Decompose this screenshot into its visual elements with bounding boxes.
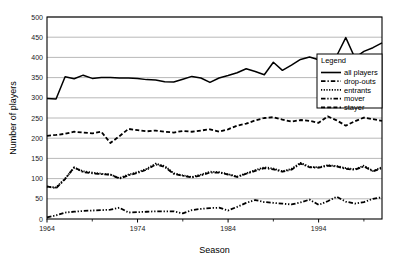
- y-tick-label-50: 50: [35, 195, 43, 202]
- x-tick-label-1964: 1964: [39, 225, 55, 232]
- legend-label-all-players: all players: [344, 68, 378, 77]
- y-tick-label-300: 300: [31, 94, 43, 101]
- x-tick-label-1994: 1994: [311, 225, 327, 232]
- y-tick-label-100: 100: [31, 175, 43, 182]
- line-chart: 0501001502002503003504004505001964197419…: [0, 0, 411, 266]
- y-tick-label-150: 150: [31, 155, 43, 162]
- y-axis-title: Number of players: [8, 81, 18, 155]
- chart-figure: 0501001502002503003504004505001964197419…: [0, 0, 411, 266]
- y-tick-label-350: 350: [31, 74, 43, 81]
- legend-label-stayer: stayer: [344, 103, 365, 112]
- legend-label-entrants: entrants: [344, 86, 371, 95]
- y-tick-label-500: 500: [31, 14, 43, 21]
- legend-label-drop-outs: drop-outs: [344, 77, 376, 86]
- legend-label-mover: mover: [344, 94, 365, 103]
- series-line-drop-outs: [47, 164, 382, 189]
- legend-title: Legend: [321, 56, 346, 65]
- x-tick-label-1984: 1984: [220, 225, 236, 232]
- y-tick-label-0: 0: [39, 216, 43, 223]
- y-tick-label-200: 200: [31, 135, 43, 142]
- series-line-mover: [47, 197, 382, 218]
- x-axis-title: Season: [199, 245, 230, 255]
- y-tick-label-400: 400: [31, 54, 43, 61]
- series-line-stayer: [47, 116, 382, 143]
- series-line-entrants: [47, 163, 382, 188]
- y-tick-label-250: 250: [31, 115, 43, 122]
- x-tick-label-1974: 1974: [130, 225, 146, 232]
- y-tick-label-450: 450: [31, 34, 43, 41]
